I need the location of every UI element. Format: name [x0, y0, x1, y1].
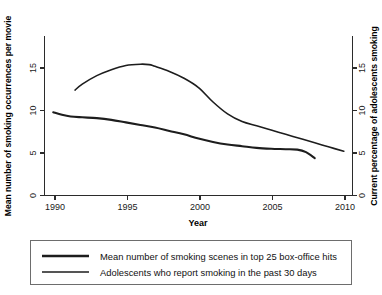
- x-tick-label-1995: 1995: [117, 202, 137, 212]
- right-axis-title: Current percentage of adolescents smokin…: [369, 26, 379, 206]
- chart-figure: 0 5 10 15 Mean number of smoking occurre…: [0, 0, 382, 295]
- left-tick-label-10: 10: [28, 105, 38, 115]
- x-tick-label-1990: 1990: [45, 202, 65, 212]
- legend-label-adolescent-smoking: Adolescents who report smoking in the pa…: [100, 267, 317, 278]
- legend-label-movie-smoking-scenes: Mean number of smoking scenes in top 25 …: [100, 251, 337, 262]
- right-tick-label-15: 15: [357, 63, 367, 73]
- left-tick-label-0: 0: [28, 193, 38, 198]
- x-tick-label-2005: 2005: [262, 202, 282, 212]
- x-axis-title: Year: [188, 218, 208, 228]
- left-axis-title: Mean number of smoking occurrences per m…: [3, 15, 13, 216]
- left-tick-label-15: 15: [28, 63, 38, 73]
- right-tick-label-5: 5: [357, 150, 367, 155]
- left-tick-label-5: 5: [28, 150, 38, 155]
- right-tick-label-10: 10: [357, 105, 367, 115]
- x-tick-label-2010: 2010: [335, 202, 355, 212]
- smoking-trends-chart: 0 5 10 15 Mean number of smoking occurre…: [0, 0, 382, 295]
- x-tick-label-2000: 2000: [190, 202, 210, 212]
- right-tick-label-0: 0: [357, 193, 367, 198]
